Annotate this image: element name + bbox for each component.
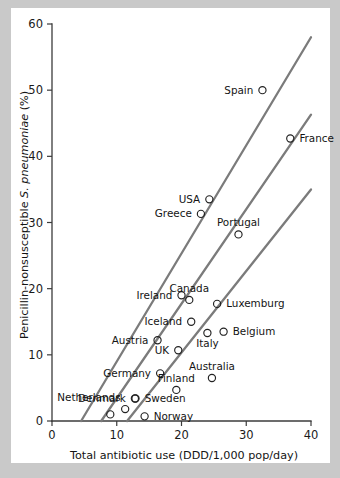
point-label-austria: Austria — [112, 334, 149, 346]
marker-netherlands — [122, 405, 129, 412]
data-point-spain — [259, 87, 266, 94]
point-label-spain: Spain — [224, 84, 253, 96]
marker-spain — [259, 87, 266, 94]
data-point-belgium — [220, 328, 227, 335]
x-axis-ticks: 010203040 — [48, 421, 318, 442]
marker-norway — [141, 413, 148, 420]
point-label-ireland: Ireland — [136, 289, 172, 301]
data-points-group: SpainFranceUSAGreecePortugalIrelandCanad… — [57, 84, 334, 422]
point-label-sweden: Sweden — [145, 392, 186, 404]
point-label-uk: UK — [155, 344, 171, 356]
data-point-norway — [141, 413, 148, 420]
point-label-usa: USA — [179, 193, 201, 205]
point-label-netherlands: Netherlands — [57, 391, 120, 403]
point-label-iceland: Iceland — [145, 315, 183, 327]
point-label-france: France — [299, 132, 334, 144]
point-label-germany: Germany — [103, 367, 151, 379]
marker-france — [287, 135, 294, 142]
x-tick-label-30: 30 — [239, 428, 254, 442]
data-point-luxembourg2 — [107, 411, 114, 418]
point-label-greece: Greece — [155, 207, 192, 219]
point-label-italy: Italy — [196, 337, 219, 349]
data-point-france — [287, 135, 294, 142]
marker-iceland — [188, 318, 195, 325]
marker-luxembourg2 — [107, 411, 114, 418]
scatter-plot: 010203040 0102030405060 SpainFranceUSAGr… — [0, 0, 340, 478]
x-axis-title: Total antibiotic use (DDD/1,000 pop/day) — [69, 449, 298, 462]
y-axis-ticks: 0102030405060 — [28, 17, 52, 428]
data-point-australia — [208, 374, 215, 381]
marker-uk — [175, 347, 182, 354]
x-tick-label-10: 10 — [109, 428, 124, 442]
marker-italy — [204, 329, 211, 336]
point-label-belgium: Belgium — [233, 325, 276, 337]
point-label-norway: Norway — [154, 410, 193, 422]
data-point-greece — [197, 210, 204, 217]
marker-australia — [208, 374, 215, 381]
figure-container: 010203040 0102030405060 SpainFranceUSAGr… — [0, 0, 340, 478]
y-tick-label-10: 10 — [28, 348, 43, 362]
data-point-uk — [175, 347, 182, 354]
data-point-canada — [186, 296, 193, 303]
x-tick-label-20: 20 — [174, 428, 189, 442]
data-point-usa — [206, 196, 213, 203]
data-point-netherlands — [122, 405, 129, 412]
point-label-luxemburg: Luxemburg — [226, 297, 284, 309]
marker-canada — [186, 296, 193, 303]
data-point-portugal — [235, 231, 242, 238]
x-tick-label-0: 0 — [48, 428, 55, 442]
marker-portugal — [235, 231, 242, 238]
point-label-finland: Finland — [158, 372, 195, 384]
point-label-canada: Canada — [169, 282, 209, 294]
point-label-australia: Australia — [189, 360, 235, 372]
marker-belgium — [220, 328, 227, 335]
y-tick-label-0: 0 — [36, 414, 43, 428]
point-label-portugal: Portugal — [217, 216, 260, 228]
marker-usa — [206, 196, 213, 203]
marker-greece — [197, 210, 204, 217]
x-tick-label-40: 40 — [304, 428, 319, 442]
y-axis-title: Penicillin-nonsusceptible S. pneumoniae … — [18, 91, 31, 339]
data-point-iceland — [188, 318, 195, 325]
axes-group — [52, 24, 311, 421]
y-tick-label-60: 60 — [28, 17, 43, 31]
data-point-italy — [204, 329, 211, 336]
